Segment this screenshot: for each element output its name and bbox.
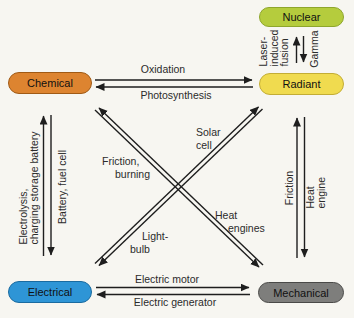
arrow-chemical-to-mechanical-diagonal <box>95 110 259 267</box>
label-line: Friction, <box>102 155 150 168</box>
label-friction-burning: Friction, burning <box>102 155 150 181</box>
label-battery-fuel-cell: Battery, fuel cell <box>57 150 68 224</box>
arrow-layer <box>0 0 354 318</box>
node-chemical: Chemical <box>8 72 92 94</box>
node-mechanical-label: Mechanical <box>273 287 329 299</box>
label-heat-engine: Heat engine <box>305 170 326 209</box>
label-light-bulb: Light- bulb <box>130 230 168 256</box>
label-line: cell <box>196 139 221 152</box>
arrow-radiant-to-electrical-diagonal <box>99 109 263 266</box>
label-gamma: Gamma <box>309 30 320 67</box>
label-friction: Friction <box>284 171 295 205</box>
label-laser-induced-fusion: Laser- induced fusion <box>258 30 290 67</box>
energy-transformation-diagram: Nuclear Radiant Chemical Electrical Mech… <box>0 0 354 318</box>
node-nuclear: Nuclear <box>259 7 344 27</box>
label-line: burning <box>115 168 150 181</box>
label-heat-engines: Heat engines <box>215 209 265 235</box>
label-line: Solar <box>196 126 221 139</box>
label-line: engines <box>228 222 265 235</box>
label-line: Light- <box>142 230 168 243</box>
arrow-electrical-to-radiant-diagonal <box>95 107 259 264</box>
label-photosynthesis: Photosynthesis <box>116 89 236 102</box>
node-chemical-label: Chemical <box>27 77 73 89</box>
label-oxidation: Oxidation <box>108 63 218 76</box>
label-electric-motor: Electric motor <box>112 273 222 286</box>
label-electrolysis-charging-storage-battery: Electrolysis, charging storage battery <box>18 131 39 244</box>
node-radiant-label: Radiant <box>283 78 321 90</box>
label-electric-generator: Electric generator <box>115 296 235 309</box>
node-radiant: Radiant <box>259 73 344 95</box>
label-line: Heat <box>215 209 265 222</box>
node-electrical-label: Electrical <box>28 286 73 298</box>
node-nuclear-label: Nuclear <box>283 11 321 23</box>
node-electrical: Electrical <box>8 281 92 303</box>
node-mechanical: Mechanical <box>258 282 344 303</box>
label-solar-cell: Solar cell <box>196 126 221 152</box>
label-line: bulb <box>130 243 168 256</box>
